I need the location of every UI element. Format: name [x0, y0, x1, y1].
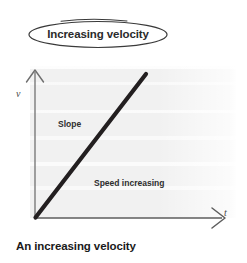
title-callout: Increasing velocity	[27, 19, 169, 49]
speed-increasing-annotation: Speed increasing	[94, 178, 164, 188]
v-axis-label: v	[16, 88, 20, 99]
velocity-line	[36, 74, 147, 218]
chart-area: v t Slope Speed increasing	[12, 62, 236, 220]
velocity-time-figure: Increasing velocity v t Slope Speed incr…	[0, 0, 247, 263]
v-axis	[27, 70, 44, 218]
t-axis-label: t	[224, 207, 227, 218]
chart-svg	[12, 62, 236, 220]
t-axis	[35, 208, 225, 228]
figure-caption: An increasing velocity	[16, 240, 136, 252]
figure-title: Increasing velocity	[27, 19, 169, 49]
slope-annotation: Slope	[58, 119, 81, 129]
